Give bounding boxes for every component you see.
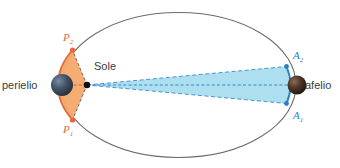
area-a2-letter: A (293, 49, 300, 61)
orbit-diagram-svg (0, 0, 340, 168)
point-p2-marker (70, 47, 75, 52)
area-p2-label: P2 (63, 32, 73, 46)
perihelion-label: perielio (2, 80, 37, 91)
kepler-second-law-figure: perielio Sole afelio P2 P1 A2 A1 (0, 0, 340, 168)
area-p1-label: P1 (63, 124, 73, 138)
area-a2-label: A2 (293, 50, 303, 64)
area-a1-letter: A (293, 109, 300, 121)
area-a2-subscript: 2 (300, 56, 304, 64)
planet-at-perihelion (51, 74, 73, 96)
point-p1-marker (70, 117, 75, 122)
area-p1-subscript: 1 (70, 130, 74, 138)
point-a2-marker (284, 64, 289, 69)
area-p1-letter: P (63, 123, 70, 135)
sun-dot (84, 82, 91, 89)
area-a1-label: A1 (293, 110, 303, 124)
area-p2-letter: P (63, 31, 70, 43)
planet-at-aphelion (288, 76, 307, 95)
area-p2-subscript: 2 (70, 38, 74, 46)
sun-label: Sole (94, 61, 116, 72)
area-a1-subscript: 1 (300, 116, 304, 124)
point-a1-marker (284, 101, 289, 106)
aphelion-label: afelio (305, 80, 331, 91)
